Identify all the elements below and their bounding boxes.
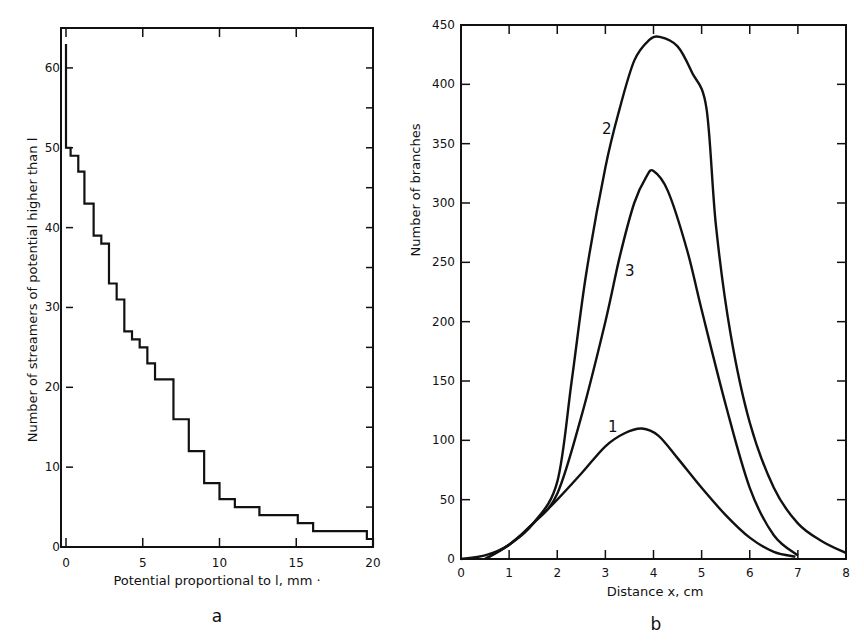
panel-b-curve-3-label: 3 [625,262,635,280]
x-tick-label: 0 [62,556,70,570]
panel-b-letter: b [651,614,662,634]
x-tick-label: 0 [457,566,465,580]
panel-b-curve-3 [485,170,798,559]
panel-b-curve-2 [485,36,846,559]
figure: 05101520 0102030405060 Potential proport… [0,0,864,644]
x-tick-label: 2 [553,566,561,580]
x-tick-label: 15 [289,556,304,570]
y-tick-label: 50 [440,493,455,507]
panel-a-x-ticks: 05101520 [62,28,380,570]
y-tick-label: 40 [45,221,60,235]
x-tick-label: 6 [746,566,754,580]
x-tick-label: 3 [602,566,610,580]
x-tick-label: 4 [650,566,658,580]
y-tick-label: 300 [432,196,455,210]
panel-b-x-ticks: 012345678 [457,25,850,580]
x-tick-label: 8 [842,566,850,580]
panel-b-y-axis-label: Number of branches [408,123,423,256]
panel-a-chart: 05101520 0102030405060 Potential proport… [25,28,381,626]
y-tick-label: 60 [45,61,60,75]
panel-a-letter: a [212,606,222,626]
y-tick-label: 400 [432,77,455,91]
panel-a-step-line [66,44,373,547]
panel-b-frame [461,25,846,559]
y-tick-label: 10 [45,460,60,474]
y-tick-label: 30 [45,300,60,314]
x-tick-label: 20 [365,556,380,570]
panel-b-curve-1 [461,428,795,559]
y-tick-label: 50 [45,141,60,155]
x-tick-label: 1 [505,566,513,580]
panel-b-x-axis-label: Distance x, cm [607,584,704,599]
y-tick-label: 100 [432,433,455,447]
x-tick-label: 7 [794,566,802,580]
panel-a-y-ticks: 0102030405060 [45,61,373,554]
x-tick-label: 5 [139,556,147,570]
x-tick-label: 5 [698,566,706,580]
y-tick-label: 350 [432,137,455,151]
y-tick-label: 450 [432,18,455,32]
x-tick-label: 10 [212,556,227,570]
panel-b-chart: 012345678 050100150200250300350400450 1 … [408,18,850,634]
y-tick-label: 0 [447,552,455,566]
panel-a-frame [61,28,373,547]
y-tick-label: 20 [45,380,60,394]
panel-b-curve-2-label: 2 [602,120,612,138]
y-tick-label: 0 [52,540,60,554]
panel-a-x-axis-label: Potential proportional to l, mm · [113,573,320,588]
y-tick-label: 150 [432,374,455,388]
panel-b-curve-1-label: 1 [608,418,618,436]
y-tick-label: 200 [432,315,455,329]
y-tick-label: 250 [432,255,455,269]
panel-a-y-axis-label: Number of streamers of potential higher … [25,138,40,443]
panel-b-y-ticks: 050100150200250300350400450 [432,18,846,566]
